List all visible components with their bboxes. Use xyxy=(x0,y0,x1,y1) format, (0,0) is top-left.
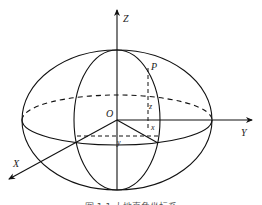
ellipsoid-diagram: Z Y X O P z x y 图 1-1 大地直角坐标系 xyxy=(0,0,262,205)
y-coordinate-label: y xyxy=(116,138,121,147)
z-coordinate-label: z xyxy=(148,102,153,111)
y-axis-label: Y xyxy=(241,127,248,138)
x-axis-label: X xyxy=(12,158,20,169)
figure-caption: 图 1-1 大地直角坐标系 xyxy=(85,201,177,205)
point-p-label: P xyxy=(150,61,157,72)
x-axis xyxy=(9,120,117,179)
origin-label: O xyxy=(106,108,113,119)
z-axis-label: Z xyxy=(123,13,129,24)
x-coordinate-label: x xyxy=(150,123,155,132)
